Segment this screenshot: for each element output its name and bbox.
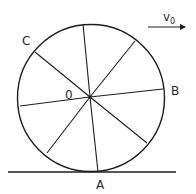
velocity-subscript: 0 [170, 17, 175, 26]
wheel-center-point [88, 95, 91, 98]
label-c: C [22, 34, 30, 48]
spoke-to-a [90, 97, 98, 172]
rolling-wheel-diagram: v 0 C 0 B A [0, 0, 196, 194]
spoke-to-c [35, 52, 90, 97]
spoke-upper-right [90, 41, 135, 97]
spoke-top [83, 24, 90, 97]
spoke-to-b [90, 89, 163, 97]
wheel-spokes [20, 24, 163, 172]
label-center-o: 0 [65, 88, 73, 102]
spoke-lower-right [90, 97, 147, 143]
label-b: B [171, 84, 179, 98]
label-a: A [96, 178, 105, 192]
spoke-left [20, 97, 90, 106]
spoke-lower-left [47, 97, 90, 153]
